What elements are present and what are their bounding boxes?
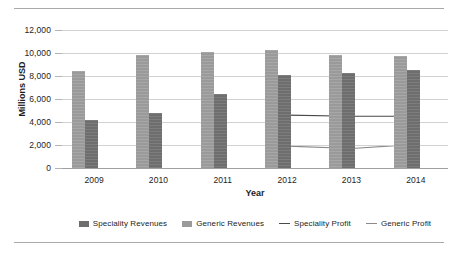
bar-generic-revenues xyxy=(72,71,85,168)
legend-item[interactable]: Speciality Revenues xyxy=(79,219,167,228)
bar-group: 2011 xyxy=(191,30,255,168)
top-divider-rule xyxy=(14,8,444,9)
legend-swatch-icon xyxy=(182,221,192,227)
legend-item[interactable]: Generic Revenues xyxy=(182,219,264,228)
y-axis-tick-label: 12,000 xyxy=(24,25,51,35)
bar-generic-revenues xyxy=(136,55,149,168)
bottom-divider-rule xyxy=(14,242,444,243)
x-axis-tick-label: 2011 xyxy=(191,175,255,185)
y-axis-tick-label: 10,000 xyxy=(24,48,51,58)
bar-speciality-revenues xyxy=(342,73,355,168)
chart-figure: Millions USD 02,0004,0006,0008,00010,000… xyxy=(0,0,456,253)
bar-group: 2010 xyxy=(126,30,190,168)
bar-speciality-revenues xyxy=(407,70,420,168)
y-axis-tick xyxy=(55,76,62,77)
y-axis-tick-label: 6,000 xyxy=(29,94,51,104)
y-axis-tick xyxy=(55,122,62,123)
x-axis-tick-label: 2010 xyxy=(126,175,190,185)
bar-speciality-revenues xyxy=(85,120,98,168)
bar-speciality-revenues xyxy=(149,113,162,168)
bar-speciality-revenues xyxy=(278,75,291,168)
y-axis-tick-label: 8,000 xyxy=(29,71,51,81)
legend-line-icon xyxy=(279,223,290,224)
legend-item[interactable]: Speciality Profit xyxy=(279,219,351,228)
y-axis-tick-label: 0 xyxy=(46,163,51,173)
gridline xyxy=(62,168,448,169)
bar-group: 2013 xyxy=(319,30,383,168)
y-axis-tick-label: 4,000 xyxy=(29,117,51,127)
x-axis-tick-label: 2009 xyxy=(62,175,126,185)
bar-group: 2012 xyxy=(255,30,319,168)
legend-item[interactable]: Generic Profit xyxy=(366,219,431,228)
y-axis-tick-label: 2,000 xyxy=(29,140,51,150)
bar-speciality-revenues xyxy=(214,94,227,168)
legend-swatch-icon xyxy=(79,221,89,227)
legend-label: Speciality Profit xyxy=(294,219,351,228)
chart-legend: Speciality RevenuesGeneric RevenuesSpeci… xyxy=(62,219,448,228)
bar-generic-revenues xyxy=(394,56,407,168)
x-axis-title: Year xyxy=(62,188,448,198)
legend-line-icon xyxy=(366,223,377,224)
y-axis-tick xyxy=(55,53,62,54)
bar-generic-revenues xyxy=(329,55,342,168)
plot-area: 02,0004,0006,0008,00010,00012,0002009201… xyxy=(62,30,448,168)
bar-generic-revenues xyxy=(265,50,278,168)
bar-group: 2009 xyxy=(62,30,126,168)
legend-label: Generic Profit xyxy=(381,219,431,228)
x-axis-tick-label: 2013 xyxy=(319,175,383,185)
bar-generic-revenues xyxy=(201,52,214,168)
legend-label: Speciality Revenues xyxy=(93,219,167,228)
x-axis-tick-label: 2012 xyxy=(255,175,319,185)
y-axis-tick xyxy=(55,168,62,169)
x-axis-tick-label: 2014 xyxy=(384,175,448,185)
y-axis-tick xyxy=(55,30,62,31)
y-axis-tick xyxy=(55,145,62,146)
legend-label: Generic Revenues xyxy=(196,219,264,228)
bar-group: 2014 xyxy=(384,30,448,168)
y-axis-tick xyxy=(55,99,62,100)
